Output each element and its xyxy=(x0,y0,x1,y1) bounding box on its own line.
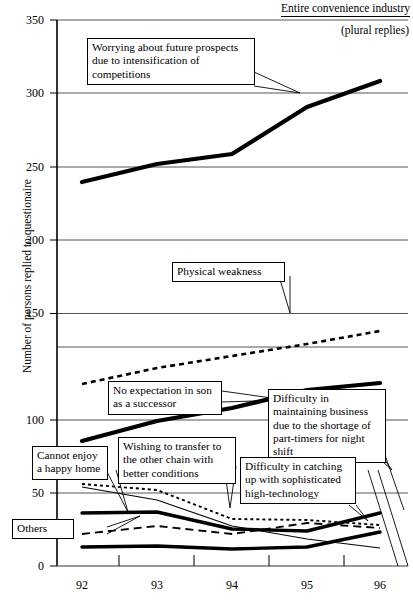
y-tick-0: 0 xyxy=(8,559,44,574)
x-tick-92: 92 xyxy=(62,578,102,593)
y-tick-100: 100 xyxy=(8,413,44,428)
x-tick-95: 95 xyxy=(287,578,327,593)
callout-no-expectation: No expectation in son as a successor xyxy=(108,381,222,415)
chart-figure: Entire convenience industry (plural repl… xyxy=(0,0,413,609)
y-tick-200: 200 xyxy=(8,233,44,248)
series-physical-weakness xyxy=(82,331,380,384)
x-tick-93: 93 xyxy=(137,578,177,593)
chart-plot-area xyxy=(0,0,413,609)
callout-physical-weakness: Physical weakness xyxy=(172,262,285,282)
y-tick-50: 50 xyxy=(8,486,44,501)
callout-difficulty-catching: Difficulty in catching up with sophistic… xyxy=(240,457,356,504)
y-tick-350: 350 xyxy=(8,13,44,28)
x-tick-94: 94 xyxy=(212,578,252,593)
y-tick-250: 250 xyxy=(8,160,44,175)
callout-worrying: Worrying about future prospects due to i… xyxy=(87,38,255,85)
callout-cannot-enjoy: Cannot enjoy a happy home xyxy=(32,446,108,480)
x-axis-ticks xyxy=(119,555,344,566)
y-tick-150: 150 xyxy=(8,306,44,321)
callout-wishing-transfer: Wishing to transfer to the other chain w… xyxy=(118,437,236,484)
x-tick-96: 96 xyxy=(360,578,400,593)
y-tick-300: 300 xyxy=(8,86,44,101)
callout-difficulty-maintaining: Difficulty in maintaining business due t… xyxy=(268,389,386,463)
callout-others: Others xyxy=(12,519,74,539)
y-axis-ticks xyxy=(50,20,57,566)
